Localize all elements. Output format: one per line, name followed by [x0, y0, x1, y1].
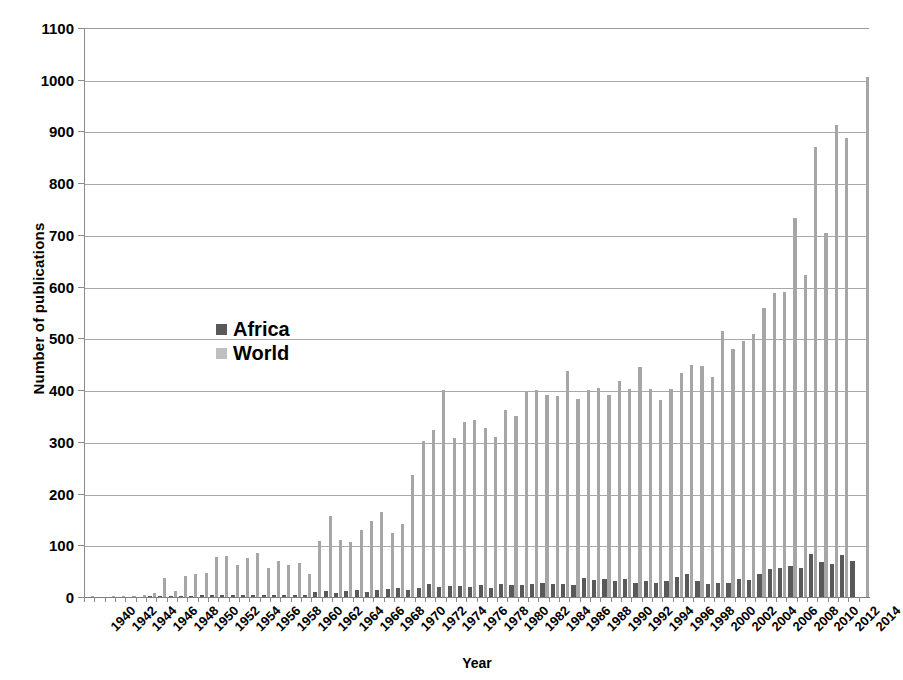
bar-group: [333, 29, 343, 597]
bar-group: [643, 29, 653, 597]
bar-group: [539, 29, 549, 597]
bar-africa: [850, 561, 854, 597]
bar-world: [473, 420, 476, 597]
bar-africa: [716, 583, 720, 597]
x-tick-mark: [621, 597, 622, 602]
y-tick-label: 100: [4, 537, 74, 554]
bar-africa: [551, 584, 555, 597]
bar-group: [591, 29, 601, 597]
x-tick-mark: [125, 597, 126, 602]
x-tick-mark: [817, 597, 818, 602]
x-tick-mark: [353, 597, 354, 602]
bar-group: [818, 29, 828, 597]
plot-area: Africa World: [84, 28, 869, 597]
bar-world: [453, 438, 456, 597]
bar-group: [219, 29, 229, 597]
x-tick-mark: [766, 597, 767, 602]
bar-group: [157, 29, 167, 597]
x-tick-mark: [291, 597, 292, 602]
x-tick-mark: [384, 597, 385, 602]
bar-group: [209, 29, 219, 597]
bar-group: [85, 29, 95, 597]
bar-world: [607, 395, 610, 597]
x-tick-mark: [549, 597, 550, 602]
bar-group: [715, 29, 725, 597]
x-tick-mark: [683, 597, 684, 602]
bar-group: [622, 29, 632, 597]
bar-world: [556, 396, 559, 597]
bar-group: [736, 29, 746, 597]
bar-world: [814, 147, 817, 597]
bar-africa: [396, 588, 400, 597]
bar-africa: [840, 555, 844, 597]
x-tick-mark: [187, 597, 188, 602]
bar-africa: [571, 585, 575, 597]
bar-group: [178, 29, 188, 597]
x-tick-mark: [156, 597, 157, 602]
x-tick-mark: [146, 597, 147, 602]
bar-world: [287, 565, 290, 597]
bar-group: [457, 29, 467, 597]
bar-world: [669, 389, 672, 597]
bar-group: [829, 29, 839, 597]
bar-world: [225, 556, 228, 597]
bar-world: [783, 292, 786, 597]
bar-africa: [809, 554, 813, 597]
bar-world: [246, 558, 249, 597]
bar-group: [674, 29, 684, 597]
bar-group: [405, 29, 415, 597]
bar-group: [467, 29, 477, 597]
x-tick-mark: [776, 597, 777, 602]
bar-group: [271, 29, 281, 597]
bar-group: [694, 29, 704, 597]
bar-world: [711, 377, 714, 597]
bar-group: [550, 29, 560, 597]
y-tick-label: 800: [4, 175, 74, 192]
bar-africa: [406, 590, 410, 597]
y-axis-tick-labels: 010020030040050060070080090010001100: [0, 0, 84, 680]
x-tick-mark: [404, 597, 405, 602]
x-tick-mark: [229, 597, 230, 602]
x-tick-mark: [373, 597, 374, 602]
bar-world: [194, 574, 197, 597]
bar-africa: [592, 580, 596, 597]
y-tick-label: 500: [4, 330, 74, 347]
bar-africa: [582, 578, 586, 597]
bar-africa: [737, 579, 741, 597]
bar-world: [618, 381, 621, 597]
bar-africa: [489, 588, 493, 597]
bar-world: [184, 576, 187, 597]
bar-group: [168, 29, 178, 597]
bar-group: [508, 29, 518, 597]
x-tick-mark: [807, 597, 808, 602]
bar-group: [725, 29, 735, 597]
x-tick-mark: [755, 597, 756, 602]
bar-world: [690, 365, 693, 597]
bar-group: [529, 29, 539, 597]
x-tick-mark: [260, 597, 261, 602]
bar-world: [514, 416, 517, 597]
bar-africa: [706, 584, 710, 597]
bar-group: [230, 29, 240, 597]
bar-group: [137, 29, 147, 597]
bar-group: [312, 29, 322, 597]
bar-group: [560, 29, 570, 597]
bar-world: [752, 334, 755, 597]
y-tick-label: 1000: [4, 71, 74, 88]
x-tick-mark: [828, 597, 829, 602]
x-tick-mark: [693, 597, 694, 602]
bar-group: [426, 29, 436, 597]
bar-group: [663, 29, 673, 597]
bar-world: [535, 390, 538, 597]
x-tick-mark: [859, 597, 860, 602]
bar-world: [835, 125, 838, 597]
bar-africa: [499, 584, 503, 597]
bar-world: [391, 533, 394, 597]
bar-group: [250, 29, 260, 597]
bar-world: [793, 218, 796, 597]
x-tick-mark: [714, 597, 715, 602]
x-tick-mark: [611, 597, 612, 602]
bar-group: [777, 29, 787, 597]
bar-world: [163, 578, 166, 597]
bar-africa: [561, 584, 565, 597]
